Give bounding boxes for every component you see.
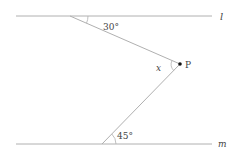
label-p: P: [185, 60, 191, 70]
label-m: m: [218, 139, 227, 149]
angle-arc-45: [112, 134, 116, 144]
label-l: l: [220, 11, 223, 22]
label-angle-45: 45°: [117, 131, 133, 141]
angle-arc-30: [87, 16, 89, 23]
segment-p-to-bottom: [102, 64, 180, 144]
parallel-lines-diagram: l m P 30° 45° x: [0, 0, 240, 156]
point-p: [178, 62, 182, 66]
label-angle-x: x: [156, 63, 161, 73]
angle-arc-x: [171, 61, 174, 71]
label-angle-30: 30°: [103, 22, 119, 32]
